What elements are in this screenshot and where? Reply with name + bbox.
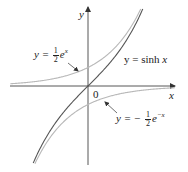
x-axis-label: x — [169, 90, 174, 101]
half-exp-denominator: 2 — [53, 56, 59, 64]
neg-half-exp-exponent: −x — [157, 111, 165, 119]
neg-half-exp-label: y = − 1 2 e−x — [116, 111, 165, 128]
neg-half-exp-label-lhs: y = − — [116, 112, 141, 124]
y-axis-label: y — [79, 9, 84, 20]
origin-label: 0 — [93, 89, 99, 100]
half-exp-pointer-arrow — [68, 63, 78, 71]
half-exp-label-lhs: y = — [34, 48, 49, 60]
sinh-label-lhs: y = sinh — [124, 53, 160, 65]
neg-half-exp-denominator: 2 — [145, 120, 151, 128]
neg-half-exp-fraction: 1 2 — [145, 111, 151, 128]
half-exp-curve — [10, 9, 140, 84]
sinh-label-var: x — [162, 53, 167, 65]
half-exp-label: y = 1 2 ex — [34, 47, 68, 64]
half-exp-fraction: 1 2 — [53, 47, 59, 64]
half-exp-exponent: x — [65, 47, 68, 55]
plot-area — [0, 0, 188, 172]
sinh-label: y = sinh x — [124, 54, 167, 65]
